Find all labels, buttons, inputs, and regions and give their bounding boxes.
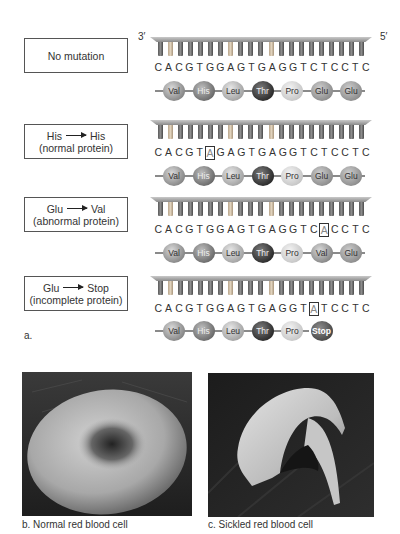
label-box: No mutation <box>24 38 128 73</box>
label-note: (abnormal protein) <box>33 215 119 227</box>
base: C <box>309 61 319 73</box>
nucleotide-bar <box>168 125 173 139</box>
nucleotide-bar <box>299 42 304 56</box>
amino-acid-glu: Glu <box>311 166 333 186</box>
base: C <box>309 146 319 160</box>
base: G <box>288 223 298 237</box>
base: T <box>195 223 205 237</box>
base: G <box>278 146 288 160</box>
base: T <box>319 302 329 316</box>
base: C <box>153 146 163 160</box>
nucleotide-bar <box>208 202 213 216</box>
amino-acid-thr: Thr <box>252 243 274 263</box>
nucleotide-bar <box>218 42 223 56</box>
base: A <box>267 223 277 237</box>
amino-acid-glu: Glu <box>340 243 362 263</box>
amino-acid-stop: Stop <box>311 321 333 341</box>
nucleotide-bar <box>208 125 213 139</box>
base: C <box>309 223 319 237</box>
nucleotide-bar <box>198 202 203 216</box>
from-amino-acid: Glu <box>43 282 59 294</box>
base: G <box>278 223 288 237</box>
three-prime-label: 3′ <box>138 31 145 42</box>
label-note: (incomplete protein) <box>30 294 123 306</box>
amino-acid-chain: ValHisLeuThrProGluGlu <box>155 166 365 186</box>
base: T <box>298 61 308 73</box>
label-text: No mutation <box>48 50 105 62</box>
amino-acid-leu: Leu <box>222 81 244 101</box>
dna-sequence: CACGTGGAGTGAGGTATCCTC <box>153 302 371 316</box>
base: G <box>236 146 246 160</box>
base: G <box>288 146 298 160</box>
base: T <box>298 302 308 316</box>
nucleotide-bar <box>289 125 294 139</box>
nucleotide-bar <box>319 42 324 56</box>
base: A <box>267 61 277 73</box>
nucleotide-bar <box>329 202 334 216</box>
nucleotide-bar <box>329 42 334 56</box>
base: A <box>226 61 236 73</box>
nucleotide-bar <box>208 42 213 56</box>
base: C <box>361 146 371 160</box>
base: G <box>288 302 298 316</box>
base: C <box>153 302 163 316</box>
nucleotide-bar <box>248 281 253 295</box>
nucleotide-bar <box>269 42 274 56</box>
base: A <box>163 223 173 237</box>
base: G <box>184 302 194 316</box>
nucleotide-bar <box>289 42 294 56</box>
amino-acid-val: Val <box>163 321 185 341</box>
base: T <box>195 146 205 160</box>
normal-cell-caption: b. Normal red blood cell <box>22 519 128 530</box>
base: C <box>340 223 350 237</box>
base: G <box>184 223 194 237</box>
nucleotide-bar <box>178 281 183 295</box>
base: G <box>236 61 246 73</box>
base: T <box>350 223 360 237</box>
amino-acid-pro: Pro <box>281 321 303 341</box>
base: G <box>215 223 225 237</box>
base: T <box>195 61 205 73</box>
nucleotide-bar <box>158 202 163 216</box>
base: T <box>246 146 256 160</box>
amino-acid-his: His <box>193 321 215 341</box>
base: T <box>195 302 205 316</box>
base: C <box>174 61 184 73</box>
base: T <box>350 302 360 316</box>
arrow-right-icon <box>66 135 86 137</box>
nucleotide-bar <box>329 125 334 139</box>
base: C <box>361 61 371 73</box>
base: T <box>298 146 308 160</box>
nucleotide-bar <box>299 281 304 295</box>
nucleotide-bar <box>218 125 223 139</box>
dna-sequence: CACGTAGAGTGAGGTCTCCTC <box>153 146 371 160</box>
amino-acid-val: Val <box>163 166 185 186</box>
base: G <box>184 146 194 160</box>
amino-acid-val: Val <box>311 243 333 263</box>
base: A <box>163 146 173 160</box>
nucleotide-bar <box>178 202 183 216</box>
nucleotide-bar <box>269 125 274 139</box>
base: T <box>319 61 329 73</box>
base: A <box>163 302 173 316</box>
amino-acid-leu: Leu <box>222 321 244 341</box>
base: T <box>246 61 256 73</box>
dna-sequence: CACGTGGAGTGAGGTCTCCTC <box>153 61 371 73</box>
nucleotide-bar <box>309 202 314 216</box>
nucleotide-bar <box>228 42 233 56</box>
nucleotide-bar <box>238 202 243 216</box>
base: C <box>153 223 163 237</box>
nucleotide-bar <box>339 281 344 295</box>
base: G <box>205 61 215 73</box>
nucleotide-bars <box>158 42 364 56</box>
amino-acid-his: His <box>193 81 215 101</box>
nucleotide-bar <box>359 42 364 56</box>
base: T <box>350 146 360 160</box>
nucleotide-bar <box>339 202 344 216</box>
nucleotide-bar <box>279 125 284 139</box>
base: G <box>278 61 288 73</box>
label-box: GluVal (abnormal protein) <box>24 197 128 232</box>
nucleotide-bar <box>248 42 253 56</box>
nucleotide-bar <box>359 125 364 139</box>
base: G <box>278 302 288 316</box>
